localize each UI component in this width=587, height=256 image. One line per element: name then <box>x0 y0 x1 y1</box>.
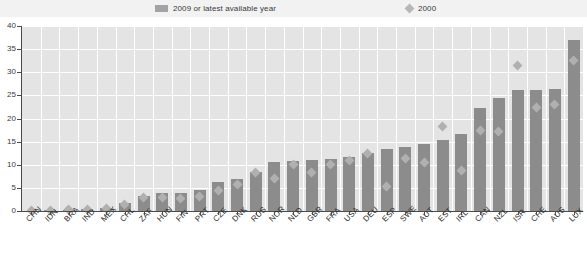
x-tick-mark <box>424 212 425 215</box>
y-tick-label: 15 <box>1 138 16 146</box>
y-tick-mark <box>17 72 22 73</box>
bar-deu <box>362 153 374 211</box>
legend-diamond-swatch-icon <box>405 4 415 14</box>
gridline-vertical <box>527 26 528 211</box>
bar-nor <box>268 162 280 211</box>
gridline-vertical <box>490 26 491 211</box>
x-tick-mark <box>87 212 88 215</box>
bar-isr <box>512 90 524 211</box>
gridline-vertical <box>564 26 565 211</box>
x-tick-mark <box>31 212 32 215</box>
gridline-vertical <box>116 26 117 211</box>
legend-label-2009: 2009 or latest available year <box>173 4 276 13</box>
x-tick-mark <box>480 212 481 215</box>
y-tick-label: 25 <box>1 91 16 99</box>
y-tick-label: 5 <box>1 184 16 192</box>
x-tick-mark <box>461 212 462 215</box>
gridline-vertical <box>97 26 98 211</box>
x-tick-mark <box>106 212 107 215</box>
gridline-vertical <box>41 26 42 211</box>
x-tick-mark <box>349 212 350 215</box>
gridline-vertical <box>415 26 416 211</box>
x-tick-mark <box>181 212 182 215</box>
bar-chart: 2009 or latest available year 2000 05101… <box>0 0 587 256</box>
gridline-vertical <box>134 26 135 211</box>
x-tick-mark <box>256 212 257 215</box>
y-tick-mark <box>17 95 22 96</box>
gridline-vertical <box>377 26 378 211</box>
y-tick-mark <box>17 26 22 27</box>
gridline-vertical <box>452 26 453 211</box>
gridline-vertical <box>546 26 547 211</box>
marker-2000-isr <box>513 60 523 70</box>
y-tick-label: 0 <box>1 207 16 215</box>
bar-aut <box>418 144 430 211</box>
y-tick-label: 35 <box>1 45 16 53</box>
gridline-vertical <box>209 26 210 211</box>
gridline-vertical <box>433 26 434 211</box>
x-tick-mark <box>536 212 537 215</box>
bar-est <box>437 140 449 211</box>
y-tick-mark <box>17 142 22 143</box>
gridline-vertical <box>228 26 229 211</box>
gridline-vertical <box>508 26 509 211</box>
y-tick-mark <box>17 211 22 212</box>
gridline-vertical <box>246 26 247 211</box>
legend-item-2000: 2000 <box>406 2 436 15</box>
x-tick-mark <box>144 212 145 215</box>
gridline-vertical <box>303 26 304 211</box>
footer-strip <box>0 248 587 256</box>
x-tick-mark <box>218 212 219 215</box>
x-tick-mark <box>200 212 201 215</box>
bar-nzl <box>493 98 505 211</box>
y-axis-labels: 0510152025303540 <box>0 0 16 256</box>
y-tick-mark <box>17 119 22 120</box>
x-tick-mark <box>405 212 406 215</box>
gridline-vertical <box>78 26 79 211</box>
x-tick-mark <box>368 212 369 215</box>
x-tick-mark <box>518 212 519 215</box>
x-tick-mark <box>443 212 444 215</box>
x-tick-mark <box>574 212 575 215</box>
x-tick-mark <box>274 212 275 215</box>
y-tick-mark <box>17 49 22 50</box>
bar-esp <box>381 149 393 211</box>
gridline-vertical <box>340 26 341 211</box>
plot-area <box>22 26 583 211</box>
y-tick-mark <box>17 165 22 166</box>
x-tick-mark <box>555 212 556 215</box>
gridline-vertical <box>190 26 191 211</box>
x-tick-mark <box>312 212 313 215</box>
x-tick-mark <box>387 212 388 215</box>
gridline-vertical <box>172 26 173 211</box>
y-tick-label: 20 <box>1 115 16 123</box>
legend-item-2009: 2009 or latest available year <box>155 2 276 15</box>
gridline-vertical <box>59 26 60 211</box>
y-tick-label: 40 <box>1 22 16 30</box>
x-tick-mark <box>50 212 51 215</box>
x-tick-mark <box>237 212 238 215</box>
legend-label-2000: 2000 <box>418 4 436 13</box>
x-tick-mark <box>125 212 126 215</box>
gridline-vertical <box>284 26 285 211</box>
bar-can <box>474 108 486 211</box>
gridline-vertical <box>265 26 266 211</box>
legend-bar-swatch-icon <box>155 5 168 12</box>
gridline-vertical <box>321 26 322 211</box>
gridline-vertical <box>153 26 154 211</box>
x-tick-mark <box>162 212 163 215</box>
x-tick-mark <box>499 212 500 215</box>
marker-2000-est <box>438 122 448 132</box>
x-tick-mark <box>69 212 70 215</box>
x-tick-mark <box>331 212 332 215</box>
y-tick-label: 30 <box>1 68 16 76</box>
gridline-vertical <box>359 26 360 211</box>
y-tick-label: 10 <box>1 161 16 169</box>
x-tick-mark <box>293 212 294 215</box>
gridline-vertical <box>471 26 472 211</box>
chart-legend: 2009 or latest available year 2000 <box>0 0 587 17</box>
gridline-vertical <box>396 26 397 211</box>
bar-lux <box>568 40 580 211</box>
y-tick-mark <box>17 188 22 189</box>
